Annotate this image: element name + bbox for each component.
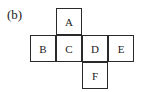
cell-label: D bbox=[91, 43, 99, 55]
net-cell-d: D bbox=[82, 35, 108, 62]
cell-label: F bbox=[92, 70, 98, 82]
net-cell-f: F bbox=[82, 62, 108, 89]
net-cell-b: B bbox=[30, 35, 56, 62]
cell-label: A bbox=[65, 16, 73, 28]
net-cell-a: A bbox=[56, 8, 82, 35]
net-cell-c: C bbox=[56, 35, 82, 62]
cell-label: B bbox=[39, 43, 46, 55]
cell-label: E bbox=[118, 43, 125, 55]
net-cell-e: E bbox=[108, 35, 134, 62]
cell-label: C bbox=[65, 43, 72, 55]
figure-label: (b) bbox=[7, 8, 22, 22]
